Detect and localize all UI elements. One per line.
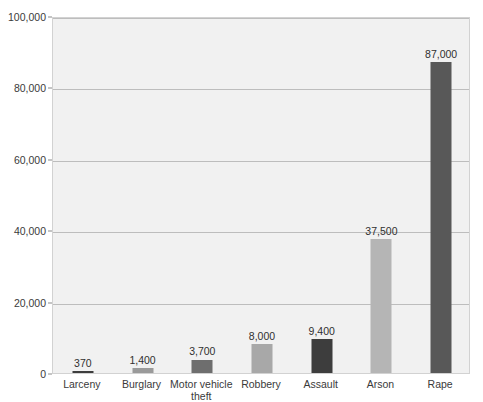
y-tick-label: 20,000 xyxy=(14,297,46,308)
bar-group: 37,500 xyxy=(355,16,407,373)
y-tick-label: 80,000 xyxy=(14,83,46,94)
bar[interactable] xyxy=(252,344,273,373)
bar[interactable] xyxy=(192,360,213,373)
y-tick-label: 60,000 xyxy=(14,155,46,166)
bar-group: 8,000 xyxy=(236,16,288,373)
plot-area: 3701,4003,7008,0009,40037,50087,000 xyxy=(52,17,470,374)
bar-value-label: 9,400 xyxy=(309,326,335,337)
bar-value-label: 8,000 xyxy=(249,331,275,342)
bar-value-label: 1,400 xyxy=(129,355,155,366)
y-tick-label: 0 xyxy=(40,369,46,380)
bar[interactable] xyxy=(132,368,153,373)
bar-value-label: 37,500 xyxy=(365,226,397,237)
bar-value-label: 370 xyxy=(74,358,92,369)
bar-group: 87,000 xyxy=(415,16,467,373)
bar-group: 370 xyxy=(57,16,109,373)
bar-value-label: 3,700 xyxy=(189,346,215,357)
bar[interactable] xyxy=(371,239,392,373)
bar[interactable] xyxy=(311,339,332,373)
bar[interactable] xyxy=(431,62,452,373)
bar-group: 3,700 xyxy=(176,16,228,373)
x-tick-label: Rape xyxy=(397,379,483,391)
y-tick-label: 100,000 xyxy=(8,12,46,23)
bar[interactable] xyxy=(72,371,93,373)
bar-value-label: 87,000 xyxy=(425,49,457,60)
bar-group: 1,400 xyxy=(117,16,169,373)
y-tick-label: 40,000 xyxy=(14,226,46,237)
bar-group: 9,400 xyxy=(296,16,348,373)
